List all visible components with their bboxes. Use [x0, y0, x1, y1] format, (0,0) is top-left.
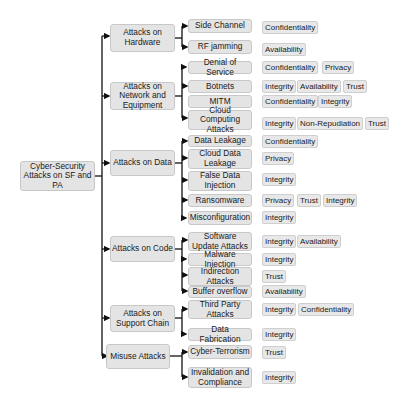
- attack-node: Ransomware: [188, 194, 252, 207]
- attack-node: Side Channel: [188, 19, 252, 33]
- attack-node: Data Fabrication: [188, 328, 252, 341]
- attack-node: Misconfiguration: [188, 211, 252, 225]
- property-tag: Confidentiality: [298, 303, 354, 316]
- attack-node: Third Party Attacks: [188, 300, 252, 319]
- attack-label: Buffer overflow: [192, 287, 247, 297]
- category-misuse: Misuse Attacks: [106, 344, 170, 369]
- attack-label: Data Fabrication: [190, 325, 250, 344]
- attack-label: Cloud Computing Attacks: [190, 106, 250, 135]
- property-tag: Integrity: [262, 253, 296, 266]
- property-tag: Integrity: [262, 80, 296, 93]
- property-tag: Privacy: [262, 194, 294, 207]
- attack-node: Cloud Data Leakage: [188, 149, 252, 169]
- attack-node: Buffer overflow: [188, 286, 252, 298]
- property-tag: Integrity: [262, 328, 296, 341]
- attack-label: Botnets: [206, 82, 234, 92]
- category-network: Attacks on Network and Equipment: [110, 82, 175, 110]
- attack-label: Side Channel: [195, 21, 245, 31]
- category-label: Attacks on Support Chain: [112, 309, 173, 328]
- attack-label: Denial of Service: [190, 58, 250, 77]
- category-label: Misuse Attacks: [110, 352, 165, 362]
- category-support-chain: Attacks on Support Chain: [110, 305, 175, 332]
- property-tag: Confidentiality: [262, 21, 318, 34]
- attack-label: Third Party Attacks: [190, 300, 250, 319]
- category-data: Attacks on Data: [110, 150, 175, 176]
- property-tag: Confidentiality: [262, 61, 318, 74]
- category-hardware: Attacks on Hardware: [110, 24, 175, 52]
- property-tag: Integrity: [323, 194, 357, 207]
- property-tag: Non-Repudiation: [297, 117, 363, 130]
- property-tag: Integrity: [262, 235, 296, 248]
- property-tag: Trust: [262, 346, 286, 359]
- attack-label: Data Leakage: [194, 136, 246, 146]
- property-tag: Trust: [365, 117, 389, 130]
- attack-node: Indirection Attacks: [188, 267, 252, 286]
- property-tag: Confidentiality: [262, 95, 318, 108]
- property-tag: Availability: [262, 285, 306, 298]
- property-tag: Availability: [262, 43, 306, 56]
- attack-label: Misconfiguration: [190, 213, 250, 223]
- property-tag: Confidentiality: [262, 135, 318, 148]
- category-label: Attacks on Data: [113, 158, 172, 168]
- root-node: Cyber-Security Attacks on SF and PA: [20, 161, 95, 191]
- root-label: Cyber-Security Attacks on SF and PA: [22, 162, 93, 191]
- property-tag: Integrity: [262, 371, 296, 384]
- attack-node: Cyber-Terrorism: [188, 345, 252, 359]
- attack-node: Denial of Service: [188, 61, 252, 74]
- attack-label: Invalidation and Compliance: [190, 368, 250, 387]
- property-tag: Integrity: [262, 117, 296, 130]
- property-tag: Privacy: [262, 152, 294, 165]
- property-tag: Integrity: [262, 211, 296, 224]
- category-label: Attacks on Code: [112, 244, 173, 254]
- property-tag: Integrity: [318, 95, 352, 108]
- category-label: Attacks on Network and Equipment: [112, 82, 173, 111]
- property-tag: Trust: [343, 80, 367, 93]
- property-tag: Trust: [297, 194, 321, 207]
- attack-label: Cyber-Terrorism: [190, 347, 249, 357]
- attack-node: Botnets: [188, 80, 252, 93]
- property-tag: Availability: [297, 80, 341, 93]
- category-code: Attacks on Code: [110, 236, 175, 262]
- attack-label: False Data Injection: [190, 171, 250, 190]
- attack-node: RF jamming: [188, 40, 252, 54]
- attack-label: Indirection Attacks: [190, 267, 250, 286]
- attack-node: Invalidation and Compliance: [188, 367, 252, 388]
- property-tag: Privacy: [322, 61, 354, 74]
- attack-label: Ransomware: [196, 196, 245, 206]
- attack-node: Cloud Computing Attacks: [188, 110, 252, 130]
- attack-node: Malware Injection: [188, 253, 252, 266]
- category-label: Attacks on Hardware: [112, 28, 173, 47]
- attack-label: RF jamming: [198, 42, 243, 52]
- attack-node: False Data Injection: [188, 171, 252, 191]
- property-tag: Availability: [297, 235, 341, 248]
- attack-label: Cloud Data Leakage: [190, 149, 250, 168]
- attack-node: Data Leakage: [188, 135, 252, 147]
- property-tag: Trust: [262, 270, 286, 283]
- property-tag: Integrity: [262, 173, 296, 186]
- property-tag: Integrity: [262, 303, 296, 316]
